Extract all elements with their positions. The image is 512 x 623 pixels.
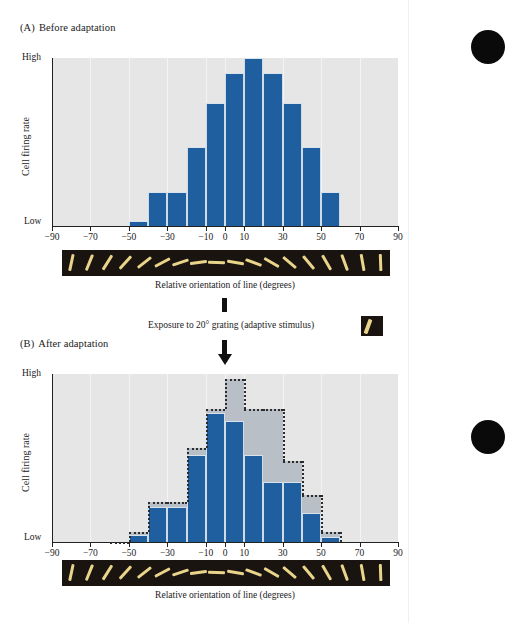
panel-b-x-axis-title: Relative orientation of line (degrees)	[52, 590, 398, 600]
grating-line-segment	[360, 254, 366, 271]
x-tick-label: 70	[344, 548, 376, 558]
x-tick-label: −90	[36, 548, 68, 558]
grating-line-segment	[263, 257, 279, 268]
x-tick	[225, 227, 226, 231]
panel-b-title-text: After adaptation	[38, 338, 108, 349]
grating-line-segment	[119, 566, 133, 581]
data-bar	[167, 192, 186, 226]
x-tick	[129, 227, 130, 231]
grating-line-segment	[364, 318, 373, 333]
reference-outline-side	[206, 409, 208, 448]
x-tick	[398, 543, 399, 547]
reference-outline-side	[302, 461, 304, 495]
grating-line-segment	[263, 567, 279, 578]
x-tick-label: −50	[113, 548, 145, 558]
grating-line-segment	[68, 564, 75, 581]
data-bar	[129, 535, 148, 542]
x-tick	[398, 227, 399, 231]
grating-line-segment	[68, 254, 75, 271]
reference-outline-side	[225, 379, 227, 409]
reference-outline-side	[244, 379, 246, 409]
x-tick	[206, 543, 207, 547]
data-bar	[244, 455, 263, 542]
grating-line-segment	[154, 568, 171, 579]
grating-line-segment	[119, 256, 133, 271]
x-tick-label: 30	[267, 548, 299, 558]
transition-arrow-head	[218, 354, 232, 365]
x-tick	[283, 543, 284, 547]
data-bar	[206, 413, 225, 542]
reference-outline-top	[244, 409, 263, 411]
panel-b-y-low-label: Low	[24, 532, 41, 542]
reference-outline-top	[187, 448, 206, 450]
grating-line-segment	[321, 255, 332, 271]
reference-outline-top	[225, 379, 244, 381]
panel-b-grating-strip	[62, 560, 390, 586]
grating-line-segment	[136, 566, 151, 579]
reference-outline-side	[340, 532, 342, 542]
grating-line-segment	[301, 565, 314, 580]
data-bar	[283, 482, 302, 542]
x-tick-label: −70	[74, 232, 106, 242]
x-tick	[167, 543, 168, 547]
x-tick-label: −30	[151, 232, 183, 242]
margin-dot-1	[471, 30, 505, 64]
x-tick-label: −30	[151, 548, 183, 558]
x-tick	[225, 543, 226, 547]
grating-line-segment	[136, 256, 151, 269]
grating-line-segment	[321, 565, 332, 581]
grating-line-segment	[172, 569, 189, 577]
x-tick-label: 50	[305, 548, 337, 558]
data-bar	[148, 507, 167, 542]
data-bar	[148, 192, 167, 226]
reference-outline-side	[283, 409, 285, 461]
x-tick	[52, 543, 53, 547]
x-tick-label: 70	[344, 232, 376, 242]
x-tick	[206, 227, 207, 231]
panel-b-y-axis-title: Cell firing rate	[20, 433, 31, 492]
reference-outline-top	[148, 502, 167, 504]
reference-outline-top	[129, 532, 148, 534]
reference-outline-side	[321, 495, 323, 532]
x-tick	[52, 227, 53, 231]
data-bar	[321, 192, 340, 226]
grating-line-segment	[226, 570, 243, 576]
panel-b-title: (B)After adaptation	[20, 338, 108, 349]
grating-line-segment	[208, 261, 225, 265]
reference-outline-top	[110, 542, 129, 544]
reference-outline-top	[167, 502, 186, 504]
grating-line-segment	[379, 564, 383, 581]
transition-caption: Exposure to 20° grating (adaptive stimul…	[148, 320, 314, 330]
grating-line-segment	[301, 255, 314, 270]
data-bar	[206, 103, 225, 226]
margin-dot-2	[471, 420, 505, 454]
panel-a-y-low-label: Low	[24, 216, 41, 226]
panel-a-label: (A)	[20, 22, 35, 33]
x-tick-label: 10	[228, 548, 260, 558]
transition-arrow-stem-top	[222, 298, 227, 312]
data-bar	[167, 507, 186, 542]
grating-line-segment	[340, 254, 349, 271]
x-tick	[90, 543, 91, 547]
panel-a-title-text: Before adaptation	[39, 22, 116, 33]
grating-line-segment	[360, 564, 366, 581]
gridline	[90, 58, 91, 226]
grating-line-segment	[340, 564, 349, 581]
reference-outline-top	[302, 495, 321, 497]
panel-a-title: (A)Before adaptation	[20, 22, 116, 33]
grating-line-segment	[379, 254, 383, 271]
reference-outline-top	[263, 409, 282, 411]
data-bar	[263, 73, 282, 226]
figure-page: (A)Before adaptation High Low Cell firin…	[0, 0, 512, 623]
grating-line-segment	[245, 259, 262, 268]
reference-outline-top	[206, 409, 225, 411]
grating-line-segment	[85, 255, 94, 272]
gridline	[360, 374, 361, 542]
x-tick	[360, 543, 361, 547]
reference-outline-top	[321, 532, 340, 534]
grating-line-segment	[190, 260, 207, 266]
panel-b-y-high-label: High	[22, 368, 41, 378]
panel-a-x-axis-title: Relative orientation of line (degrees)	[52, 280, 398, 290]
grating-line-segment	[282, 256, 297, 269]
panel-a-y-axis-title: Cell firing rate	[20, 117, 31, 176]
